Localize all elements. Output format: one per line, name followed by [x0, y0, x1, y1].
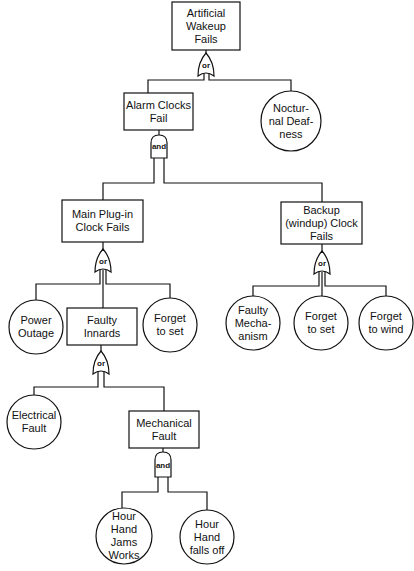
node-label-forget-to-wind: Forget to wind	[359, 296, 413, 350]
node-label-hour-hand-jams: Hour Hand Jams Works	[96, 508, 152, 564]
gate-label-mainplug-or: or	[95, 257, 111, 267]
node-label-faulty-mechanism: Faulty Mecha- anism	[226, 296, 280, 350]
diagram-graphics	[0, 0, 414, 571]
node-label-artificial-wakeup: Artificial Wakeup Fails	[172, 2, 240, 50]
gate-label-mechanical-and: and	[153, 461, 173, 471]
node-label-nocturnal-deafness: Noctur- nal Deaf- ness	[261, 91, 321, 151]
gate-label-alarm-and: and	[149, 142, 169, 152]
node-label-power-outage: Power Outage	[9, 300, 63, 354]
node-label-main-plugin: Main Plug-in Clock Fails	[62, 200, 143, 242]
node-label-forget-to-set-backup: Forget to set	[294, 296, 348, 350]
node-label-mechanical-fault: Mechanical Fault	[129, 411, 199, 448]
node-label-forget-to-set-main: Forget to set	[143, 298, 197, 352]
gate-label-innards-or: or	[93, 359, 109, 369]
node-label-hour-hand-falls-off: Hour Hand falls off	[180, 510, 234, 564]
fault-tree-diagram: Artificial Wakeup Fails Alarm Clocks Fai…	[0, 0, 414, 571]
node-label-faulty-innards: Faulty Innards	[67, 308, 137, 345]
node-label-alarm-clocks: Alarm Clocks Fail	[124, 93, 193, 130]
gate-label-backup-or: or	[314, 259, 330, 269]
connector-lines	[34, 50, 386, 510]
node-label-backup-clock: Backup (windup) Clock Fails	[281, 202, 362, 244]
gate-label-top-or: or	[198, 61, 214, 71]
node-label-electrical-fault: Electrical Fault	[7, 395, 61, 449]
